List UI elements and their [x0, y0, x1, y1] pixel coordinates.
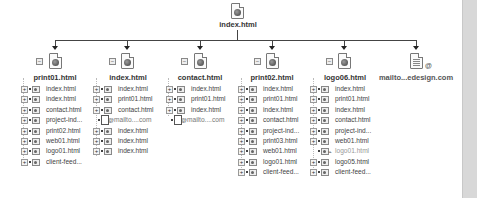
html-page-icon — [321, 86, 329, 93]
expand-icon[interactable]: + — [93, 138, 100, 145]
arrow-down-icon — [413, 46, 419, 50]
expand-icon[interactable]: + — [310, 128, 317, 135]
expand-icon[interactable]: + — [310, 107, 317, 114]
expand-icon[interactable]: + — [238, 107, 245, 114]
expand-icon[interactable]: + — [21, 86, 28, 93]
html-page-icon — [249, 96, 257, 103]
expand-icon[interactable]: + — [21, 117, 28, 124]
html-page-icon — [249, 159, 257, 166]
html-page-icon — [321, 107, 329, 114]
html-page-icon[interactable] — [338, 53, 351, 69]
node-label-print02[interactable]: print02.html — [251, 73, 294, 82]
expand-icon[interactable]: + — [238, 117, 245, 124]
html-page-icon — [104, 138, 112, 145]
root-html-page-icon[interactable] — [231, 3, 244, 19]
expand-icon[interactable]: + — [310, 96, 317, 103]
html-page-icon — [104, 96, 112, 103]
html-page-icon[interactable] — [49, 53, 62, 69]
arrow-down-icon — [269, 46, 275, 50]
html-page-icon — [32, 159, 40, 166]
node-label-print01[interactable]: print01.html — [34, 73, 77, 82]
collapse-toggle[interactable]: − — [326, 58, 333, 65]
broken-link-icon: ⌁ — [328, 147, 332, 157]
expand-icon[interactable]: + — [238, 169, 245, 176]
html-page-icon — [104, 128, 112, 135]
site-map-canvas: index.html − print01.html +index.html +i… — [0, 0, 462, 198]
mailto-document-icon[interactable] — [410, 53, 423, 69]
html-page-icon — [321, 96, 329, 103]
html-page-icon — [104, 86, 112, 93]
collapse-toggle[interactable]: − — [254, 58, 261, 65]
html-page-icon — [249, 117, 257, 124]
html-page-icon — [321, 169, 329, 176]
arrow-down-icon — [52, 46, 58, 50]
expand-icon[interactable]: + — [310, 169, 317, 176]
expand-icon[interactable]: + — [166, 86, 173, 93]
html-page-icon — [321, 128, 329, 135]
html-page-icon — [32, 148, 40, 155]
expand-icon[interactable]: + — [21, 148, 28, 155]
html-page-icon — [249, 128, 257, 135]
html-page-icon — [249, 138, 257, 145]
expand-icon[interactable]: + — [21, 96, 28, 103]
expand-icon[interactable]: + — [238, 138, 245, 145]
html-page-icon — [321, 138, 329, 145]
expand-icon[interactable]: + — [238, 148, 245, 155]
html-page-icon — [177, 86, 185, 93]
html-page-icon — [104, 107, 112, 114]
expand-icon[interactable]: + — [21, 107, 28, 114]
arrow-down-icon — [124, 46, 130, 50]
html-page-icon — [177, 96, 185, 103]
html-page-icon[interactable] — [121, 53, 134, 69]
expand-icon[interactable]: + — [21, 128, 28, 135]
arrow-down-icon — [197, 46, 203, 50]
expand-icon[interactable]: + — [238, 128, 245, 135]
expand-icon[interactable]: + — [166, 107, 173, 114]
expand-icon[interactable]: + — [238, 159, 245, 166]
node-label-logo06[interactable]: logo06.html — [324, 73, 366, 82]
vertical-scrollbar[interactable] — [462, 0, 477, 198]
html-page-icon[interactable] — [194, 53, 207, 69]
expand-icon[interactable]: + — [93, 148, 100, 155]
expand-icon[interactable]: + — [21, 159, 28, 166]
html-page-icon — [32, 96, 40, 103]
html-page-icon — [32, 107, 40, 114]
html-page-icon — [249, 86, 257, 93]
expand-icon[interactable]: + — [21, 138, 28, 145]
expand-icon[interactable]: + — [93, 107, 100, 114]
html-page-icon — [321, 117, 329, 124]
html-page-icon — [321, 159, 329, 166]
arrow-down-icon — [341, 46, 347, 50]
html-page-icon — [249, 107, 257, 114]
root-node-label[interactable]: index.html — [219, 20, 257, 29]
html-page-icon[interactable] — [266, 53, 279, 69]
expand-icon[interactable]: + — [310, 117, 317, 124]
expand-icon[interactable]: + — [310, 138, 317, 145]
expand-icon[interactable]: + — [238, 86, 245, 93]
collapse-toggle[interactable]: − — [36, 58, 43, 65]
html-page-icon — [32, 128, 40, 135]
html-page-icon — [32, 86, 40, 93]
expand-icon[interactable]: + — [93, 96, 100, 103]
html-page-icon — [32, 117, 40, 124]
expand-icon[interactable]: + — [310, 159, 317, 166]
html-page-icon — [249, 148, 257, 155]
node-label-index[interactable]: index.html — [109, 73, 147, 82]
html-page-icon — [177, 107, 185, 114]
html-page-icon — [249, 169, 257, 176]
branch-connector — [55, 40, 417, 41]
expand-icon[interactable]: + — [238, 96, 245, 103]
html-page-icon — [104, 148, 112, 155]
collapse-toggle[interactable]: − — [109, 58, 116, 65]
node-label-contact[interactable]: contact.html — [178, 73, 223, 82]
expand-icon[interactable]: + — [166, 96, 173, 103]
html-page-icon — [32, 138, 40, 145]
collapse-toggle[interactable]: − — [181, 58, 188, 65]
root-connector — [237, 30, 238, 40]
expand-icon[interactable]: + — [310, 86, 317, 93]
at-sign-icon: @ — [425, 62, 432, 69]
expand-icon[interactable]: + — [93, 128, 100, 135]
node-label-mailto[interactable]: mailto...edesign.com — [379, 73, 453, 82]
expand-icon[interactable]: + — [93, 86, 100, 93]
